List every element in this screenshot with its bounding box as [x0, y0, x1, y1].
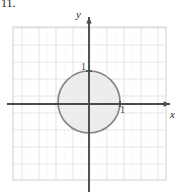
- figure-container: 11. y x 1 1: [0, 0, 181, 194]
- y-axis-arrowhead: [86, 17, 91, 24]
- x-axis-tick-label: 1: [120, 105, 125, 115]
- y-axis-tick-label: 1: [81, 62, 86, 72]
- x-axis-label: x: [170, 108, 175, 120]
- coordinate-plane: [0, 0, 181, 194]
- x-axis-arrowhead: [164, 101, 171, 106]
- y-axis-label: y: [76, 8, 81, 20]
